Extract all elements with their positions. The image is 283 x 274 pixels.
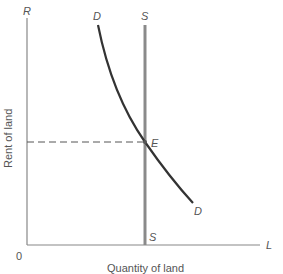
x-axis-title: Quantity of land (107, 262, 184, 274)
equilibrium-label: E (151, 137, 159, 149)
x-end-label: L (266, 239, 272, 251)
y-end-label: R (23, 5, 31, 17)
rent-diagram: R L 0 D S E D S Quantity of land Rent of… (0, 0, 283, 274)
demand-label-top: D (93, 10, 101, 22)
origin-label: 0 (16, 250, 22, 262)
equilibrium-point (143, 140, 147, 144)
supply-label-bottom: S (149, 231, 157, 243)
supply-label-top: S (141, 10, 149, 22)
y-axis-title: Rent of land (2, 109, 14, 168)
demand-label-bottom: D (194, 205, 202, 217)
